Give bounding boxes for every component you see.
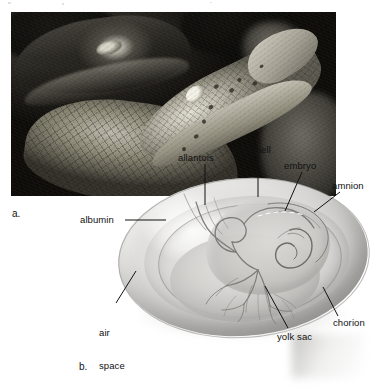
scan-artifact [210, 2, 212, 3]
label-yolk-sac: yolk sac [277, 331, 312, 342]
label-egg-shell: egg shell [232, 144, 271, 155]
panel-letter-b: b. [79, 361, 87, 372]
label-amnion: amnion [332, 180, 364, 191]
scan-artifact [8, 2, 11, 4]
label-allantois: allantois [178, 152, 214, 163]
scan-artifact [62, 3, 64, 5]
egg-internal-structures [118, 178, 368, 340]
panel-letter-a: a. [12, 208, 20, 219]
label-air-space: air space [99, 305, 125, 392]
label-albumin: albumin [80, 214, 114, 225]
label-air-space-line1: air [99, 327, 125, 338]
label-embryo: embryo [284, 160, 316, 171]
label-chorion: chorion [333, 317, 365, 328]
amniotic-egg-illustration [118, 178, 368, 340]
label-air-space-line2: space [99, 360, 125, 371]
